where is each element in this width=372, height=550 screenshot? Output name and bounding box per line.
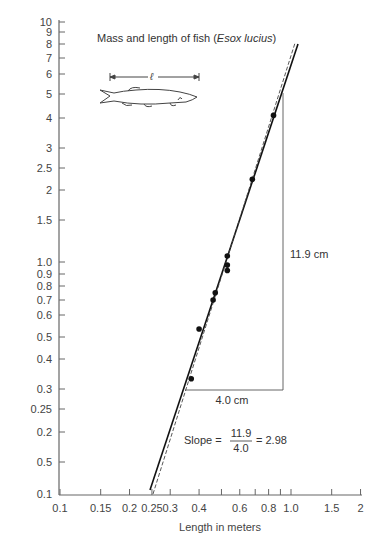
data-point <box>225 262 231 268</box>
y-tick-label: 0.3 <box>37 383 52 395</box>
reference-dashed-line <box>153 43 295 494</box>
y-tick-label: 8 <box>46 38 52 50</box>
y-tick-label: 5 <box>46 88 52 100</box>
y-tick-label: 7 <box>46 52 52 64</box>
svg-text:= 2.98: = 2.98 <box>256 434 287 446</box>
x-tick-label: 0.15 <box>90 502 111 514</box>
x-tick-label: 2 <box>357 502 363 514</box>
fish-illustration-icon: ℓ <box>100 71 199 107</box>
rise-label: 11.9 cm <box>290 248 328 260</box>
svg-text:Slope =: Slope = <box>184 434 222 446</box>
svg-text:4.0: 4.0 <box>233 442 248 454</box>
data-point <box>271 113 277 119</box>
data-point <box>210 297 216 303</box>
y-tick-label: 0.1 <box>37 488 52 500</box>
x-tick-label: 0.1 <box>52 502 67 514</box>
x-ticks: 0.10.150.20.250.30.40.60.81.01.52 <box>52 489 363 514</box>
x-tick-label: 1.5 <box>324 502 339 514</box>
data-point <box>225 268 231 274</box>
chart: 1098765432.521.51.00.90.80.70.60.50.40.3… <box>0 0 372 550</box>
y-tick-label: 0.7 <box>37 294 52 306</box>
x-tick-label: 0.8 <box>261 502 276 514</box>
y-tick-label: 1.0 <box>37 256 52 268</box>
run-label: 4.0 cm <box>215 394 248 406</box>
y-tick-label: 0.25 <box>31 403 52 415</box>
y-tick-label: 3 <box>46 142 52 154</box>
y-tick-label: 0.5 <box>37 331 52 343</box>
data-point <box>250 177 256 183</box>
y-tick-label: 1.5 <box>37 214 52 226</box>
y-tick-label: 0.4 <box>37 353 52 365</box>
y-tick-label: 2 <box>46 184 52 196</box>
x-tick-label: 0.3 <box>163 502 178 514</box>
y-ticks: 1098765432.521.51.00.90.80.70.60.50.40.3… <box>31 16 65 500</box>
y-tick-label: 0.8 <box>37 280 52 292</box>
y-tick-label: 0.9 <box>37 268 52 280</box>
data-point <box>212 290 218 296</box>
x-tick-label: 0.6 <box>232 502 247 514</box>
y-tick-label: 4 <box>46 112 52 124</box>
x-tick-label: 0.4 <box>191 502 206 514</box>
data-point <box>188 376 194 382</box>
x-tick-label: 0.25 <box>141 502 162 514</box>
data-point <box>196 326 202 332</box>
y-tick-label: 0.2 <box>37 426 52 438</box>
y-tick-label: 9 <box>46 26 52 38</box>
svg-text:11.9: 11.9 <box>231 427 252 439</box>
y-tick-label: 0.5 <box>37 456 52 468</box>
data-point <box>225 253 231 259</box>
y-tick-label: 6 <box>46 68 52 80</box>
y-tick-label: 2.5 <box>37 162 52 174</box>
x-tick-label: 0.2 <box>122 502 137 514</box>
x-tick-label: 1.0 <box>283 502 298 514</box>
chart-title: Mass and length of fish (Esox lucius) <box>97 32 276 44</box>
y-tick-label: 0.6 <box>37 309 52 321</box>
x-axis-title: Length in meters <box>179 521 261 533</box>
slope-formula: Slope = 11.9 4.0 = 2.98 <box>184 427 287 454</box>
best-fit-line <box>150 44 298 490</box>
data-points <box>188 113 276 382</box>
